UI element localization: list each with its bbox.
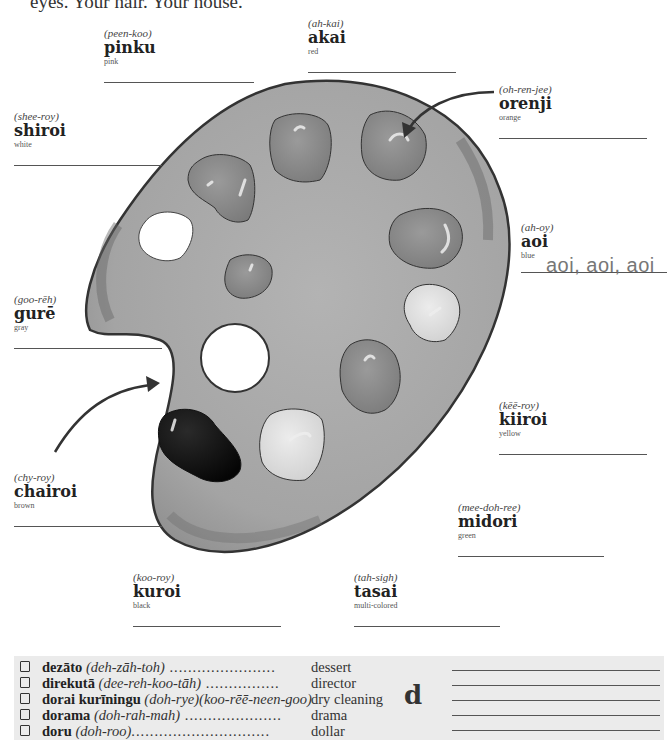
- english-meaning: red: [308, 48, 456, 56]
- japanese-word: kiiroi: [499, 412, 647, 428]
- leader-dots: ................: [201, 675, 280, 691]
- vocab-pronunciation: (doh-roo): [75, 723, 131, 739]
- vocabulary-box: dezāto (deh-zāh-toh) ...................…: [14, 656, 664, 740]
- english-meaning: gray: [14, 324, 162, 332]
- japanese-word: gurē: [14, 306, 162, 322]
- answer-line[interactable]: [499, 138, 647, 139]
- english-meaning: multi-colored: [354, 602, 500, 610]
- label-orenji: (oh-ren-jee) orenji orange: [499, 84, 647, 139]
- paint-blue: [389, 208, 462, 268]
- answer-line[interactable]: [14, 526, 162, 527]
- answer-line[interactable]: [104, 82, 254, 83]
- japanese-word: chairoi: [14, 484, 162, 500]
- label-midori: (mee-doh-ree) midori green: [458, 502, 604, 557]
- english-meaning: white: [14, 141, 162, 149]
- label-tasai: (tah-sigh) tasai multi-colored: [354, 572, 500, 627]
- answer-line[interactable]: [354, 626, 500, 627]
- vocab-english: dessert: [311, 659, 351, 675]
- japanese-word: akai: [308, 30, 456, 46]
- paint-light: [260, 409, 325, 480]
- vocab-word: direkutā: [42, 675, 95, 691]
- checkbox[interactable]: [20, 693, 30, 704]
- vocab-english: dollar: [311, 723, 345, 739]
- paint-red: [270, 114, 332, 182]
- checkbox[interactable]: [20, 725, 30, 736]
- vocab-word: dorama: [42, 707, 90, 723]
- label-gure: (goo-rēh) gurē gray: [14, 294, 162, 349]
- vocab-english: director: [311, 675, 356, 691]
- practice-example: aoi, aoi, aoi: [546, 254, 655, 277]
- answer-line[interactable]: [499, 454, 647, 455]
- paint-green: [340, 340, 400, 413]
- answer-line[interactable]: [14, 348, 162, 349]
- checkbox[interactable]: [20, 661, 30, 672]
- vocab-pronunciation: (deh-zāh-toh): [86, 659, 165, 675]
- thumb-hole: [201, 324, 269, 392]
- checkbox[interactable]: [20, 709, 30, 720]
- vocab-english: dry cleaning: [311, 691, 383, 707]
- vocab-english: drama: [311, 707, 347, 723]
- vocab-word: doru: [42, 723, 72, 739]
- english-meaning: pink: [104, 58, 254, 66]
- english-meaning: yellow: [499, 430, 647, 438]
- japanese-word: orenji: [499, 96, 647, 112]
- writing-line[interactable]: [452, 670, 660, 671]
- label-shiroi: (shee-roy) shiroi white: [14, 111, 162, 166]
- leader-dots: .....................: [180, 707, 282, 723]
- vocab-pronunciation: (dee-reh-koo-tāh): [99, 675, 202, 691]
- answer-line[interactable]: [308, 72, 456, 73]
- vocab-pronunciation: (doh-rah-mah): [94, 707, 180, 723]
- leader-dots: .......................: [165, 659, 276, 675]
- answer-line[interactable]: [133, 626, 281, 627]
- label-kuroi: (koo-roy) kuroi black: [133, 572, 281, 627]
- paint-white: [139, 212, 193, 261]
- checkbox[interactable]: [20, 677, 30, 688]
- japanese-word: aoi: [521, 234, 667, 250]
- vocab-word: dezāto: [42, 659, 82, 675]
- chairoi-arrow: [55, 385, 150, 452]
- leader-dots: ..............................: [131, 723, 270, 739]
- answer-line[interactable]: [14, 165, 162, 166]
- label-pinku: (peen-koo) pinku pink: [104, 28, 254, 83]
- japanese-word: kuroi: [133, 584, 281, 600]
- japanese-word: pinku: [104, 40, 254, 56]
- section-letter: d: [404, 680, 422, 710]
- english-meaning: black: [133, 602, 281, 610]
- label-chairoi: (chy-roy) chairoi brown: [14, 472, 162, 527]
- vocab-pronunciation: (doh-rye)(koo-rēē-neen-goo): [144, 691, 311, 707]
- writing-line[interactable]: [452, 685, 660, 686]
- vocab-word: dorai kurīningu: [42, 691, 141, 707]
- writing-line[interactable]: [452, 730, 660, 731]
- japanese-word: midori: [458, 514, 604, 530]
- writing-line[interactable]: [452, 715, 660, 716]
- label-kiiroi: (kēē-roy) kiiroi yellow: [499, 400, 647, 455]
- japanese-word: tasai: [354, 584, 500, 600]
- answer-line[interactable]: [458, 556, 604, 557]
- label-akai: (ah-kai) akai red: [308, 18, 456, 73]
- english-meaning: brown: [14, 502, 162, 510]
- english-meaning: orange: [499, 114, 647, 122]
- english-meaning: green: [458, 532, 604, 540]
- writing-line[interactable]: [452, 700, 660, 701]
- japanese-word: shiroi: [14, 123, 162, 139]
